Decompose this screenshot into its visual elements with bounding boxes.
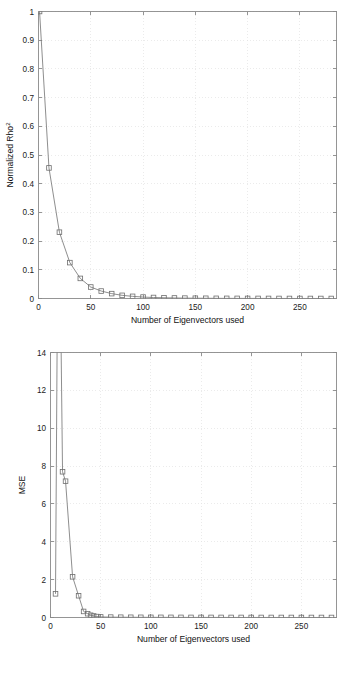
x-tick-label: 200 [244,622,258,631]
y-tick-label: 0.8 [23,65,35,74]
mse-panel: 05010015020025002468101214Number of Eige… [0,340,345,689]
x-tick-label: 100 [136,303,150,312]
data-series-group [37,9,333,301]
x-tick-label: 150 [194,622,208,631]
y-tick-label: 0.2 [23,237,35,246]
x-tick-label: 50 [96,622,106,631]
figure-container: 05010015020025000.10.20.30.40.50.60.70.8… [0,0,345,689]
x-axis-title: Number of Eigenvectors used [137,634,250,644]
x-tick-label: 100 [144,622,158,631]
y-tick-label: 0.7 [23,94,35,103]
x-tick-label: 0 [48,622,53,631]
axes-box [51,353,337,618]
grid-lines [51,353,337,618]
axis-ticks [51,353,337,618]
x-tick-label: 200 [241,303,255,312]
y-axis-title: MSE [17,475,27,494]
grid-lines [39,12,337,299]
y-tick-label: 6 [41,500,46,509]
mse-plot: 05010015020025002468101214Number of Eige… [0,340,345,689]
y-tick-label: 0 [41,614,46,623]
y-tick-label: 2 [41,576,46,585]
y-axis-title: Normalized Rho2 [5,122,15,188]
data-series-group [53,340,334,620]
y-tick-label: 0.9 [23,36,35,45]
y-tick-label: 8 [41,462,46,471]
y-tick-label: 0.6 [23,122,35,131]
x-tick-label: 0 [36,303,41,312]
y-tick-label: 0.4 [23,180,35,189]
series-line [56,340,332,617]
svg-text:Normalized Rho2: Normalized Rho2 [5,122,15,188]
normalized-rho-squared-plot: 05010015020025000.10.20.30.40.50.60.70.8… [0,0,345,340]
x-tick-label: 250 [295,622,309,631]
svg-text:MSE: MSE [17,475,27,494]
y-tick-label: 0.5 [23,151,35,160]
y-tick-label: 0.1 [23,266,35,275]
y-tick-label: 4 [41,538,46,547]
x-tick-label: 150 [189,303,203,312]
y-tick-label: 0 [29,295,34,304]
x-tick-label: 250 [293,303,307,312]
x-tick-labels: 050100150200250 [36,303,307,312]
y-tick-labels: 02468101214 [37,349,47,623]
x-tick-label: 50 [86,303,96,312]
y-tick-label: 0.3 [23,208,35,217]
y-tick-label: 10 [37,424,47,433]
y-tick-label: 1 [29,8,34,17]
y-tick-label: 12 [37,386,47,395]
normalized-rho-squared-panel: 05010015020025000.10.20.30.40.50.60.70.8… [0,0,345,340]
x-tick-labels: 050100150200250 [48,622,308,631]
x-axis-title: Number of Eigenvectors used [131,315,244,325]
y-tick-label: 14 [37,349,47,358]
y-tick-labels: 00.10.20.30.40.50.60.70.80.91 [23,8,35,304]
